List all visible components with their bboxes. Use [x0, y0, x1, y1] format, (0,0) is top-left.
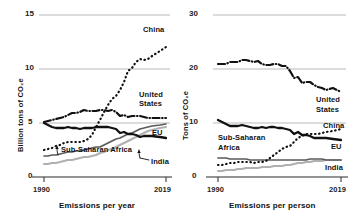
right-series-label-united-states-line1: United [316, 95, 340, 105]
right-series-label-eu: EU [331, 142, 342, 152]
series-line-sub-saharan-africa [218, 158, 341, 160]
right-series-label-sub-saharan-africa-line1: Sub-Saharan [218, 133, 265, 143]
series-line-india [218, 160, 341, 171]
left-series-label-united-states-line2: States [139, 99, 162, 109]
right-ytick-30: 30 [189, 9, 198, 18]
emissions-figure: 15 10 5 0 1990 2019 Billion tons of CO₂e… [0, 0, 355, 218]
left-xtick-2019: 2019 [154, 185, 171, 194]
left-ytick-10: 10 [25, 63, 34, 72]
left-x-axis-title: Emissions per year [59, 201, 135, 210]
right-series-label-united-states-line2: States [316, 105, 339, 115]
right-xtick-2019: 2019 [329, 185, 346, 194]
right-ytick-0: 0 [192, 171, 197, 180]
series-line-united-states [218, 60, 341, 92]
left-ytick-0: 0 [28, 171, 33, 180]
left-series-label-sub-saharan-africa: Sub-Saharan Africa [61, 145, 132, 155]
chart-panel-emissions-per-person: 30 20 10 0 1990 2019 Tons of CO₂e Emissi… [178, 0, 355, 218]
right-ytick-20: 20 [189, 63, 198, 72]
right-series-label-sub-saharan-africa-line2: Africa [218, 143, 240, 153]
left-xtick-1990: 1990 [33, 185, 50, 194]
left-series-label-india: India [151, 157, 169, 167]
left-ytick-5: 5 [28, 117, 33, 126]
right-ytick-10: 10 [189, 117, 198, 126]
left-ytick-15: 15 [25, 9, 34, 18]
left-series-label-eu: EU [152, 128, 163, 138]
right-series-label-china: China [323, 121, 344, 131]
right-x-axis-title: Emissions per person [229, 201, 316, 210]
chart-panel-emissions-per-year: 15 10 5 0 1990 2019 Billion tons of CO₂e… [0, 0, 177, 218]
left-y-axis-title: Billion tons of CO₂e [16, 78, 25, 152]
right-x-axis [206, 177, 348, 182]
right-series-label-india: India [325, 163, 343, 173]
right-y-axis-title: Tons of CO₂e [181, 91, 190, 140]
left-series-label-china: China [143, 25, 164, 35]
left-x-axis [32, 177, 172, 182]
right-xtick-1990: 1990 [207, 185, 224, 194]
